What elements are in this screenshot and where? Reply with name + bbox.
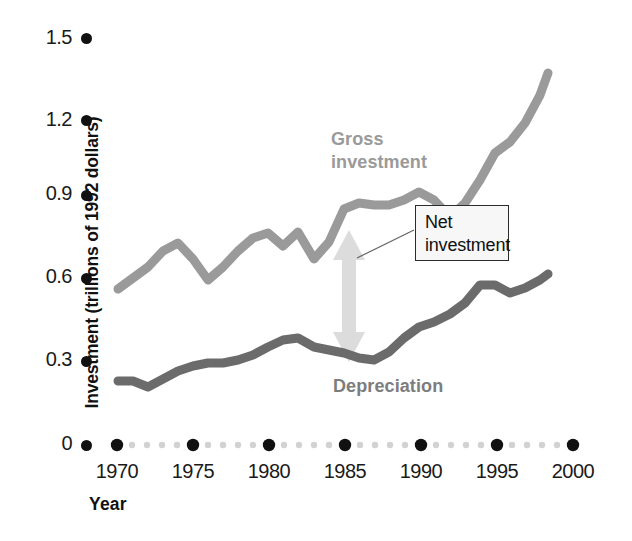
x-tick-label-1970: 1970 <box>77 460 157 483</box>
net-investment-arrow <box>333 230 365 362</box>
net-investment-line1: Net <box>425 211 499 234</box>
x-tick-label-1975: 1975 <box>153 460 233 483</box>
x-tick-label-2000: 2000 <box>533 460 613 483</box>
x-tick-label-1990: 1990 <box>381 460 461 483</box>
x-tick-label-1980: 1980 <box>229 460 309 483</box>
x-tick-label-1985: 1985 <box>305 460 385 483</box>
series-label-gross-line2: investment <box>331 151 427 174</box>
net-investment-leader-line <box>357 230 414 258</box>
depreciation-line <box>118 274 548 387</box>
net-investment-callout-box: Net investment <box>415 205 509 261</box>
x-tick-label-1995: 1995 <box>457 460 537 483</box>
series-label-gross-investment: Gross investment <box>331 128 427 173</box>
chart-canvas: Investment (trillions of 1992 dollars) 1… <box>0 0 632 541</box>
series-label-gross-line1: Gross <box>331 128 427 151</box>
net-investment-line2: investment <box>425 234 499 257</box>
x-axis-title: Year <box>89 494 127 515</box>
series-label-depreciation: Depreciation <box>333 375 443 398</box>
